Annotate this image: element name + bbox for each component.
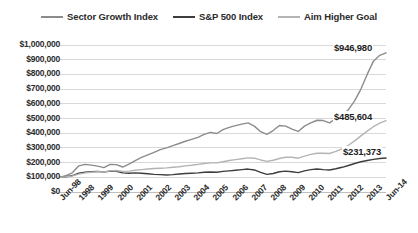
series-line-s-p-500-index [60,158,386,177]
y-tick-label: $900,000 [4,55,60,64]
data-label-aim-higher-goal: $485,604 [333,111,373,122]
y-tick-label: $100,000 [4,172,60,181]
data-label-sp-500-index: $231,373 [342,146,382,157]
y-tick-label: $400,000 [4,128,60,137]
y-tick-label: $500,000 [4,114,60,123]
y-tick-label: $0 [4,187,60,196]
line-chart: Sector Growth Index S&P 500 Index Aim Hi… [0,0,418,233]
y-tick-label: $700,000 [4,84,60,93]
y-tick-label: $1,000,000 [4,40,60,49]
y-tick-label: $600,000 [4,99,60,108]
y-tick-label: $200,000 [4,158,60,167]
data-label-sector-growth-index: $946,980 [333,42,373,53]
y-tick-label: $800,000 [4,69,60,78]
y-tick-label: $300,000 [4,143,60,152]
y-axis-ticks: $1,000,000$900,000$800,000$700,000$600,0… [0,0,60,233]
